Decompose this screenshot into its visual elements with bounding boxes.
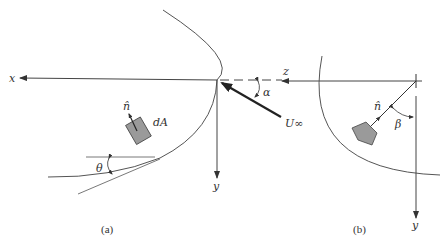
beta-label: β	[394, 118, 401, 131]
x-axis	[20, 78, 217, 80]
normal-label-a: n̂	[123, 100, 130, 113]
caption-a: (a)	[101, 223, 114, 236]
y-axis-label-b: y	[411, 219, 419, 232]
diagram-canvas: x y n̂ dA θ α U∞ (a) z y n̂ β (b)	[0, 0, 446, 238]
diagram-svg: x y n̂ dA θ α U∞ (a) z y n̂ β (b)	[0, 0, 446, 238]
freestream-label: U∞	[285, 117, 303, 130]
z-axis-label: z	[282, 65, 289, 78]
panel-b: z y n̂ β (b)	[282, 56, 440, 236]
theta-label: θ	[96, 162, 103, 175]
area-element-dA	[126, 117, 152, 145]
alpha-arc	[255, 81, 259, 97]
freestream-arrow	[222, 83, 281, 117]
body-contour-parabola	[48, 10, 222, 177]
area-element-b	[352, 122, 377, 145]
beta-arc	[393, 108, 413, 117]
x-axis-label: x	[9, 72, 16, 85]
element-label-dA: dA	[153, 116, 168, 129]
caption-b: (b)	[353, 223, 366, 236]
tangent-line	[78, 159, 160, 194]
alpha-label: α	[263, 86, 271, 99]
body-cross-section-arc	[319, 56, 440, 175]
panel-a: x y n̂ dA θ α U∞ (a)	[9, 10, 303, 236]
y-axis-label: y	[212, 180, 220, 193]
normal-label-b: n̂	[374, 100, 381, 113]
